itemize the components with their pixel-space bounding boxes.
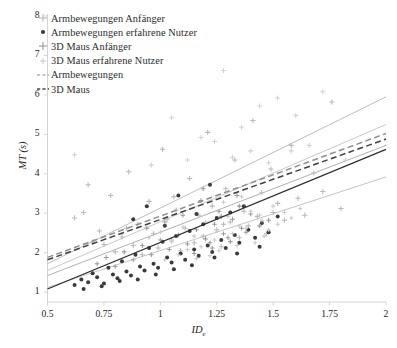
data-point	[194, 212, 198, 216]
data-point	[223, 186, 228, 191]
data-point	[97, 228, 102, 233]
legend-item-label: Armbewegungen	[51, 69, 123, 80]
data-point	[176, 193, 180, 197]
data-point	[155, 245, 160, 250]
data-point	[190, 263, 194, 267]
data-point	[163, 224, 167, 228]
x-axis-tick-label: 2	[366, 308, 397, 319]
data-point	[192, 240, 197, 245]
data-point	[104, 255, 109, 260]
data-point	[72, 215, 77, 220]
y-axis-tick-label: 4	[14, 167, 40, 178]
legend-item-label: 3D Maus erfahrene Nutzer	[51, 55, 163, 66]
y-axis-tick-label: 7	[14, 48, 40, 59]
data-point	[307, 143, 312, 148]
scatter-points	[72, 68, 348, 291]
data-point	[152, 262, 156, 266]
x-axis-label-main: ID	[191, 324, 202, 335]
trend-line	[48, 145, 387, 275]
data-point	[262, 234, 266, 238]
data-point	[118, 279, 122, 283]
x-axis-label: IDe	[0, 324, 397, 338]
y-axis-tick-label: 1	[14, 285, 40, 296]
legend-item: Armbewegungen erfahrene Nutzer	[36, 25, 256, 39]
data-point	[79, 278, 83, 282]
data-point	[149, 163, 154, 168]
data-point	[185, 247, 189, 251]
data-point	[203, 237, 208, 242]
data-point	[235, 251, 239, 255]
data-point	[302, 213, 307, 218]
trend-line	[48, 124, 387, 270]
legend-item-label: Armbewegungen erfahrene Nutzer	[51, 27, 197, 38]
data-point	[253, 236, 257, 240]
data-point	[320, 89, 325, 94]
data-point	[320, 189, 325, 194]
data-point	[248, 148, 253, 153]
data-point	[126, 169, 131, 174]
data-point	[250, 118, 255, 123]
data-point	[120, 259, 124, 263]
legend-item: 3D Maus erfahrene Nutzer	[36, 54, 256, 68]
legend-item-label: 3D Maus	[51, 84, 90, 95]
data-point	[217, 249, 221, 253]
x-axis-tick-label: 1.25	[197, 308, 237, 319]
data-point	[208, 254, 212, 258]
data-point	[235, 193, 240, 198]
data-point	[183, 258, 187, 262]
data-point	[226, 235, 231, 240]
data-point	[230, 217, 235, 222]
data-point	[221, 200, 225, 204]
x-axis-tick-label: 0.5	[28, 308, 68, 319]
data-point	[212, 238, 216, 242]
data-point	[253, 241, 257, 245]
data-point	[171, 194, 176, 199]
data-point	[338, 206, 343, 211]
data-point	[145, 204, 149, 208]
data-point	[298, 206, 302, 210]
data-point	[289, 143, 294, 148]
legend-item: 3D Maus Anfänger	[36, 39, 256, 53]
data-point	[169, 115, 174, 120]
x-axis-tick-label: 1.75	[310, 308, 350, 319]
data-point	[82, 287, 86, 291]
y-axis-tick-label: 8	[14, 9, 40, 20]
data-point	[95, 261, 100, 266]
data-point	[192, 234, 196, 238]
data-point	[143, 268, 147, 272]
data-point	[197, 254, 201, 258]
data-point	[266, 160, 271, 165]
data-point	[192, 251, 197, 256]
data-point	[210, 250, 214, 254]
data-point	[237, 235, 242, 240]
data-point	[311, 170, 316, 175]
data-point	[210, 246, 215, 251]
data-point	[192, 248, 196, 252]
data-point	[237, 204, 242, 209]
data-point	[212, 222, 217, 227]
data-point	[210, 204, 215, 209]
data-point	[224, 246, 228, 250]
data-point	[208, 183, 212, 187]
data-point	[239, 125, 244, 130]
data-point	[108, 193, 113, 198]
data-point	[276, 222, 280, 226]
data-point	[205, 130, 210, 135]
trend-line	[48, 97, 387, 264]
data-point	[289, 148, 294, 153]
data-point	[228, 239, 233, 244]
y-axis-tick-label: 2	[14, 246, 40, 257]
data-point	[170, 261, 174, 265]
data-point	[111, 272, 115, 276]
data-point	[91, 271, 95, 275]
legend-item: Armbewegungen	[36, 68, 256, 82]
x-axis-tick-label: 1	[140, 308, 180, 319]
data-point	[140, 243, 145, 248]
y-axis-tick-label: 5	[14, 127, 40, 138]
x-axis-label-sub: e	[202, 330, 205, 338]
data-point	[86, 182, 91, 187]
data-point	[201, 186, 206, 191]
data-point	[275, 201, 280, 206]
data-point	[237, 241, 241, 245]
data-point	[241, 209, 246, 214]
